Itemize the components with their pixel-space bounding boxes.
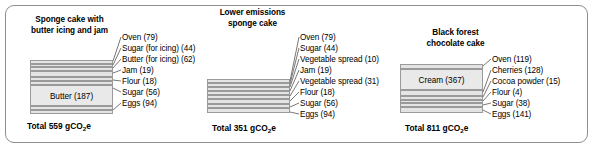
label-item-2-2: Vegetable spread (10)	[300, 55, 379, 64]
label-item-2-0: Oven (79)	[300, 33, 336, 42]
label-item-3-3: Flour (4)	[492, 88, 522, 97]
label-item-3-5: Eggs (141)	[492, 110, 531, 119]
total-2-suffix: e	[271, 123, 276, 133]
total-2: Total 351 gCO2e	[212, 123, 276, 133]
label-item-2-6: Sugar (56)	[300, 99, 338, 108]
label-item-3-0: Oven (119)	[492, 55, 532, 64]
total-1-suffix: e	[86, 121, 91, 131]
bar-segment-butter: Butter (187)	[30, 85, 113, 106]
total-1-text: Total 559 gCO	[27, 121, 83, 131]
bar-stack-2	[207, 79, 290, 119]
label-item-1-6: Eggs (94)	[122, 99, 157, 108]
bar-segment-eggs-3	[400, 107, 483, 113]
carbon-footprint-cake-figure: Sponge cake with butter icing and jam Bu…	[0, 0, 593, 148]
total-3-text: Total 811 gCO	[405, 123, 460, 133]
bar-stack-3: Cream (367)	[400, 64, 483, 118]
total-3-sub: 2	[460, 127, 463, 134]
label-item-3-2: Cocoa powder (15)	[492, 77, 560, 86]
bar-segment-base	[30, 110, 113, 114]
total-3: Total 811 gCO2e	[405, 123, 468, 133]
total-2-sub: 2	[268, 127, 271, 134]
label-item-1-2: Butter (for icing) (62)	[122, 55, 195, 64]
total-3-suffix: e	[464, 123, 469, 133]
label-item-1-0: Oven (79)	[122, 33, 158, 42]
label-item-2-5: Flour (18)	[300, 88, 335, 97]
panel-title-3: Black forest chocolate cake	[403, 28, 508, 49]
bar-segment-butter-label: Butter (187)	[31, 92, 112, 101]
label-item-3-4: Sugar (38)	[492, 99, 530, 108]
label-item-2-7: Eggs (94)	[300, 110, 335, 119]
label-item-2-3: Jam (19)	[300, 66, 332, 75]
label-item-1-4: Flour (18)	[122, 77, 157, 86]
bar-segment-eggs-2	[207, 108, 290, 113]
label-item-1-5: Sugar (56)	[122, 88, 160, 97]
panel-title-2: Lower emissions sponge cake	[200, 8, 305, 29]
bar-segment-cream-label: Cream (367)	[401, 76, 482, 85]
label-item-3-1: Cherries (128)	[492, 66, 543, 75]
label-item-2-1: Sugar (44)	[300, 44, 338, 53]
total-1-sub: 2	[83, 125, 86, 132]
label-item-1-3: Jam (19)	[122, 66, 154, 75]
total-1: Total 559 gCO2e	[27, 121, 91, 131]
label-item-1-1: Sugar (for icing) (44)	[122, 44, 195, 53]
total-2-text: Total 351 gCO	[212, 123, 268, 133]
bar-segment-cream: Cream (367)	[400, 69, 483, 90]
label-item-2-4: Vegetable spread (31)	[300, 77, 379, 86]
panel-title-1: Sponge cake with butter icing and jam	[17, 15, 122, 36]
bar-stack-1: Butter (187)	[30, 60, 113, 118]
